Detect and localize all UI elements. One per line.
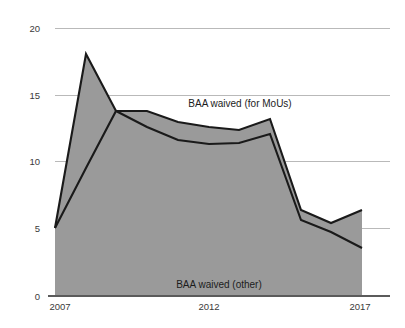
series-label-mous: BAA waived (for MoUs)	[188, 98, 291, 109]
y-tick-label-0: 0	[35, 291, 40, 302]
x-tick-label-2012: 2012	[198, 301, 219, 312]
chart-container: 20 15 10 5 0 2007 2012 2017 BAA waived (…	[0, 0, 405, 328]
y-tick-label-15: 15	[29, 90, 40, 101]
x-axis-tick-labels: 2007 2012 2017	[49, 301, 370, 312]
y-tick-label-20: 20	[29, 23, 40, 34]
x-tick-label-2007: 2007	[49, 301, 70, 312]
area-chart: 20 15 10 5 0 2007 2012 2017 BAA waived (…	[0, 0, 405, 328]
y-axis-tick-labels: 20 15 10 5 0	[29, 23, 40, 302]
y-tick-label-10: 10	[29, 156, 40, 167]
y-tick-label-5: 5	[35, 223, 40, 234]
area-series-group	[55, 54, 362, 296]
x-tick-label-2017: 2017	[349, 301, 370, 312]
series-label-other: BAA waived (other)	[176, 279, 262, 290]
